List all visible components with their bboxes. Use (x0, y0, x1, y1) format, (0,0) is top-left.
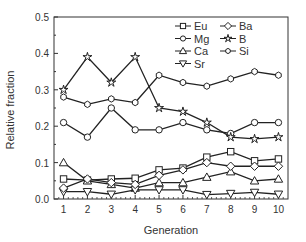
hexagon-marker (252, 68, 258, 74)
diamond-marker (274, 162, 282, 170)
y-tick-label: 0.0 (35, 194, 49, 205)
diamond-marker (224, 22, 231, 29)
x-tick-label: 9 (252, 204, 258, 215)
y-tick-label: 0.3 (35, 85, 49, 96)
x-tick-label: 5 (156, 204, 162, 215)
legend-item-ca: Ca (175, 45, 209, 57)
legend-label: Ca (194, 45, 209, 57)
hexagon-marker (132, 99, 138, 105)
circle-marker (251, 119, 257, 125)
hexagon-marker (276, 72, 282, 78)
square-marker (275, 156, 281, 162)
triangle-down-marker (274, 191, 282, 198)
legend-label: B (239, 33, 246, 45)
legend-item-ba: Ba (220, 20, 253, 32)
y-tick-label: 0.2 (35, 121, 49, 132)
circle-marker (275, 119, 281, 125)
legend-item-si: Si (220, 45, 249, 57)
circle-marker (156, 127, 162, 133)
circle-marker (180, 36, 185, 41)
y-tick-label: 0.5 (35, 12, 49, 23)
x-tick-label: 4 (132, 204, 138, 215)
legend-item-sr: Sr (175, 58, 205, 70)
legend-label: Mg (194, 33, 209, 45)
hexagon-marker (180, 79, 186, 85)
x-tick-label: 1 (61, 204, 67, 215)
circle-marker (84, 134, 90, 140)
circle-marker (180, 119, 186, 125)
legend: EuBaMgBCaSiSr (175, 20, 253, 70)
star-marker (178, 107, 187, 116)
triangle-up-marker (274, 175, 282, 182)
hexagon-marker (85, 101, 91, 107)
x-tick-label: 10 (273, 204, 285, 215)
plot-frame (54, 17, 288, 199)
square-marker (227, 148, 233, 154)
series-b (59, 52, 283, 142)
circle-marker (204, 127, 210, 133)
legend-item-mg: Mg (175, 33, 209, 45)
circle-marker (108, 105, 114, 111)
square-marker (180, 23, 185, 28)
legend-item-eu: Eu (175, 20, 207, 32)
square-marker (60, 176, 66, 182)
y-axis-title: Relative fraction (4, 71, 16, 150)
hexagon-marker (109, 96, 115, 102)
hexagon-marker (156, 72, 162, 78)
hexagon-marker (228, 76, 234, 82)
series-sr (59, 187, 282, 199)
legend-label: Si (239, 45, 249, 57)
legend-label: Sr (194, 58, 205, 70)
diamond-marker (226, 162, 234, 170)
series-ba (59, 158, 282, 192)
star-marker (224, 34, 232, 41)
series-ca (59, 158, 282, 191)
line-chart: 0.00.10.20.30.40.512345678910 EuBaMgBCaS… (0, 0, 306, 242)
y-tick-label: 0.1 (35, 158, 49, 169)
hexagon-marker (226, 48, 231, 53)
hexagon-marker (61, 94, 67, 100)
x-tick-label: 7 (204, 204, 210, 215)
data-series (59, 52, 283, 198)
x-tick-label: 2 (85, 204, 91, 215)
hexagon-marker (204, 83, 210, 89)
x-tick-label: 6 (180, 204, 186, 215)
legend-label: Ba (239, 20, 253, 32)
star-marker (274, 132, 283, 141)
x-tick-label: 8 (228, 204, 234, 215)
legend-label: Eu (194, 20, 207, 32)
x-axis-title: Generation (144, 224, 198, 236)
legend-item-b: B (220, 33, 246, 45)
y-tick-label: 0.4 (35, 48, 49, 59)
triangle-up-marker (59, 158, 67, 165)
triangle-down-marker (107, 191, 115, 198)
star-marker (155, 103, 164, 112)
x-tick-label: 3 (109, 204, 115, 215)
star-marker (250, 134, 259, 143)
circle-marker (60, 119, 66, 125)
circle-marker (132, 127, 138, 133)
series-si (61, 68, 281, 107)
